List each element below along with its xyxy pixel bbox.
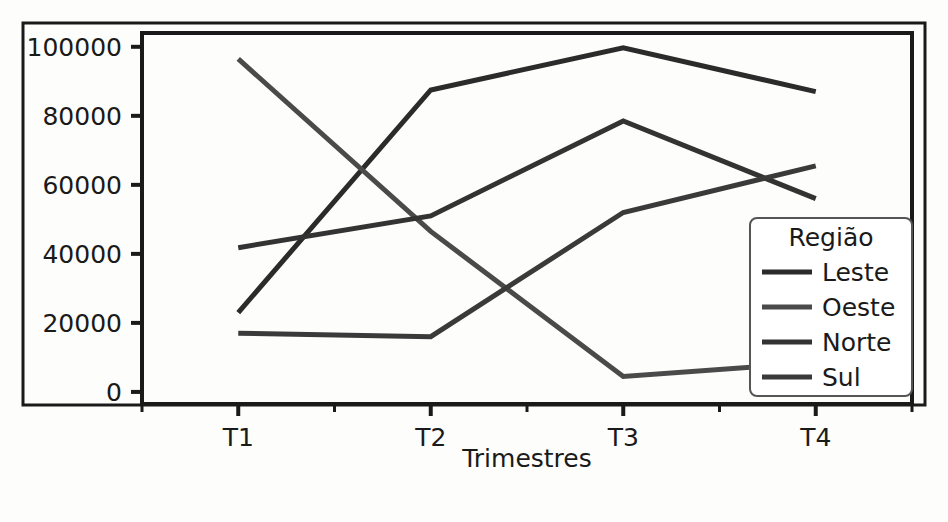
x-axis-tick-label: T1 [222,423,254,452]
line-chart: 020000400006000080000100000 T1T2T3T4 Tri… [0,0,948,522]
legend-label-oeste: Oeste [822,293,895,322]
legend-label-leste: Leste [822,258,889,287]
y-axis-tick-label: 0 [106,378,122,407]
legend-title: Região [788,223,873,252]
legend[interactable]: RegiãoLesteOesteNorteSul [750,218,912,397]
data-series-group [238,48,816,377]
y-axis-tick-labels: 020000400006000080000100000 [27,33,122,407]
y-axis-tick-label: 40000 [42,240,122,269]
series-line-sul [238,166,816,337]
legend-label-norte: Norte [822,328,891,357]
y-axis-tick-label: 20000 [42,309,122,338]
figure-canvas: 020000400006000080000100000 T1T2T3T4 Tri… [0,0,948,522]
x-axis-tick-label: T3 [607,423,639,452]
y-axis-tick-label: 60000 [42,171,122,200]
y-axis-tick-label: 80000 [42,102,122,131]
x-axis-title: Trimestres [461,444,592,473]
legend-label-sul: Sul [822,363,861,392]
y-axis-tick-label: 100000 [27,33,122,62]
series-line-oeste [238,59,816,377]
x-axis-tick-label: T4 [799,423,831,452]
x-axis-tick-label: T2 [414,423,446,452]
